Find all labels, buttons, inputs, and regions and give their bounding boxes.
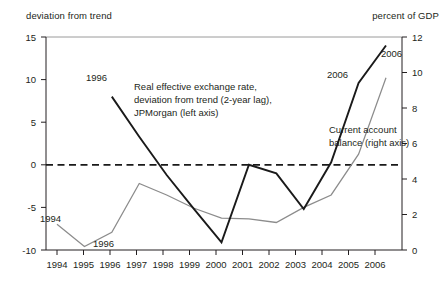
right-axis-tick-labels: 12 10 8 6 4 2 0 (412, 32, 423, 256)
x-tick-2005: 2005 (338, 259, 359, 270)
chart-container: deviation from trend percent of GDP 15 1… (0, 0, 445, 281)
x-axis-tick-labels: 1994 1995 1996 1997 1998 1999 2000 2001 … (46, 259, 385, 270)
x-tick-2001: 2001 (232, 259, 253, 270)
x-tick-1997: 1997 (126, 259, 147, 270)
x-tick-1994: 1994 (46, 259, 67, 270)
cab-desc-line-2: balance (right axis) (329, 137, 409, 148)
right-tick-10: 10 (412, 67, 423, 78)
annotation-cab-1996: 1996 (93, 238, 114, 249)
x-tick-1995: 1995 (73, 259, 94, 270)
left-tick-neg5: -5 (28, 202, 36, 213)
right-tick-6: 6 (412, 138, 417, 149)
right-tick-0: 0 (412, 245, 417, 256)
x-tick-2006: 2006 (364, 259, 385, 270)
left-tick-0: 0 (31, 159, 36, 170)
left-tick-10: 10 (25, 74, 36, 85)
annotation-reer-description: Real effective exchange rate, deviation … (134, 81, 272, 118)
x-tick-1996: 1996 (99, 259, 120, 270)
right-tick-8: 8 (412, 103, 417, 114)
left-tick-neg10: -10 (22, 245, 36, 256)
x-tick-2004: 2004 (311, 259, 332, 270)
left-tick-15: 15 (25, 32, 36, 43)
reer-desc-line-3: JPMorgan (left axis) (134, 107, 218, 118)
right-tick-2: 2 (412, 209, 417, 220)
reer-desc-line-1: Real effective exchange rate, (134, 81, 257, 92)
right-tick-12: 12 (412, 32, 423, 43)
x-tick-1999: 1999 (179, 259, 200, 270)
annotation-cab-2006: 2006 (327, 69, 348, 80)
left-tick-5: 5 (31, 117, 36, 128)
x-tick-2002: 2002 (258, 259, 279, 270)
cab-desc-line-1: Current account (329, 124, 397, 135)
annotation-cab-1994: 1994 (40, 213, 61, 224)
x-tick-2003: 2003 (285, 259, 306, 270)
line-chart-plot: 15 10 5 0 -5 -10 12 10 8 6 4 2 0 (0, 0, 445, 281)
x-axis-ticks (57, 250, 375, 255)
x-tick-2000: 2000 (205, 259, 226, 270)
right-tick-4: 4 (412, 174, 417, 185)
reer-desc-line-2: deviation from trend (2-year lag), (134, 94, 272, 105)
x-tick-1998: 1998 (152, 259, 173, 270)
left-axis-tick-labels: 15 10 5 0 -5 -10 (22, 32, 36, 256)
annotation-reer-1996: 1996 (86, 72, 107, 83)
annotation-reer-2006: 2006 (381, 48, 402, 59)
